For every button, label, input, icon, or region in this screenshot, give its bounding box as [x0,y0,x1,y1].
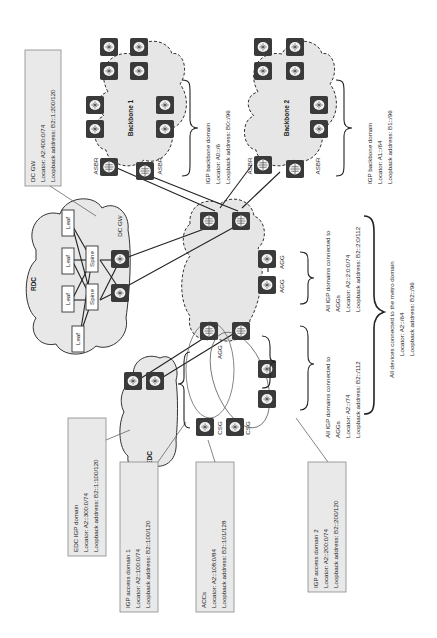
svg-text:All devices connected to the m: All devices connected to the metro domai… [388,261,395,378]
svg-text:Locator: A2::300:0/74: Locator: A2::300:0/74 [82,493,89,552]
svg-text:Locator: A2::200:0/74: Locator: A2::200:0/74 [322,529,329,588]
svg-text:Loopback address: B2::1:100/12: Loopback address: B2::1:100/120 [92,459,99,552]
svg-text:All IGP domains connected to: All IGP domains connected to [324,230,331,312]
svg-text:Loopback address: B2::200/120: Loopback address: B2::200/120 [332,500,339,588]
leaf-label: Leaf [74,333,81,345]
annotation-backbone1: IGP backbone domain Locator: A0::/6 Loop… [204,110,231,184]
svg-text:IGP backbone domain: IGP backbone domain [204,122,211,184]
svg-text:Loopback address: B2::2:0/112: Loopback address: B2::2:0/112 [354,226,361,312]
callout-dc-gw: DC GW Locator: A2:400:0/74 Loopback addr… [25,50,96,216]
svg-text:Loopback address: B2::/112: Loopback address: B2::/112 [354,361,361,438]
annotation-agg-domain: All IGP domains connected to AGGs Locato… [324,226,361,312]
brace-agg-domain [300,252,314,304]
annotation-access-domains: All IGP domains connected to AGGs Locato… [324,356,361,438]
svg-text:Locator: A2:400:0/74: Locator: A2:400:0/74 [39,124,46,182]
svg-text:Locator: A2::2:0:0/74: Locator: A2::2:0:0/74 [344,254,351,312]
leaf-label: Leaf [64,255,71,267]
csg-label: CSG [216,421,223,435]
leaf-label: Leaf [64,217,71,229]
annotation-backbone2: IGP backbone domain Locator: A1::/64 Loo… [366,110,393,184]
svg-text:Loopback address: B2::1:200/12: Loopback address: B2::1:200/120 [49,89,56,182]
svg-text:AGGs: AGGs [334,421,341,438]
brace-metro [364,216,384,414]
svg-text:Loopback address: B0::/96: Loopback address: B0::/96 [224,110,231,184]
asbr-label: ASBR [92,157,99,174]
svg-text:AGGs: AGGs [334,295,341,312]
svg-text:Locator: A2::108:0/84: Locator: A2::108:0/84 [210,549,217,608]
asbr-icon [136,162,154,180]
agg-label: AGG [278,279,285,293]
svg-text:Locator: A2::/64: Locator: A2::/64 [398,312,405,356]
svg-text:Locator: A1::/64: Locator: A1::/64 [376,140,383,184]
brace-access-domains [300,326,314,410]
backbone2-label: Backbone 2 [283,99,290,136]
asbr-label: ASBR [156,157,163,174]
asbr-label: ASBR [314,157,321,174]
agg-label: AGG [278,255,285,269]
csg-label: CSG [244,421,251,435]
svg-text:All IGP domains connected to: All IGP domains connected to [324,356,331,438]
spine-label: Spine [88,289,95,305]
svg-text:IGP access domain 1: IGP access domain 1 [124,549,131,608]
svg-text:Locator: A2::/74: Locator: A2::/74 [344,394,351,438]
svg-text:Locator: A0::/6: Locator: A0::/6 [214,144,221,184]
svg-text:Loopback address: B1::/96: Loopback address: B1::/96 [386,110,393,184]
callout-igp-access-2: IGP access domain 2 Locator: A2::200:0/7… [296,418,346,592]
annotation-metro: All devices connected to the metro domai… [388,261,415,378]
svg-text:IGP access domain 2: IGP access domain 2 [312,529,319,588]
asbr-icon [100,158,118,176]
agg-label: AGG [216,345,223,359]
svg-text:Locator: A2::100:0/74: Locator: A2::100:0/74 [134,549,141,608]
svg-text:IGP backbone domain: IGP backbone domain [366,122,373,184]
svg-text:DC GW: DC GW [29,161,36,182]
access-routers [196,360,276,436]
dc-gw-label: DC GW [116,215,123,236]
leaf-label: Leaf [64,293,71,305]
asbr-label: ASBR [246,157,253,174]
backbone1-label: Backbone 1 [127,99,134,136]
network-diagram: Backbone 1 Backbone 2 RDC EDC Leaf Leaf … [0,0,437,638]
callout-accs: ACCs Locator: A2::108:0/84 Loopback addr… [196,440,234,612]
svg-text:EDC IGP domain: EDC IGP domain [72,504,79,552]
svg-text:Loopback address: B2::101/128: Loopback address: B2::101/128 [220,520,227,608]
svg-text:Loopback address: B2::100/120: Loopback address: B2::100/120 [144,520,151,608]
brace-backbone2 [336,80,352,176]
aggregation-cloud [182,199,265,341]
svg-text:ACCs: ACCs [200,592,207,608]
spine-label: Spine [88,251,95,267]
rdc-label: RDC [30,277,37,291]
svg-text:Loopback address: B2::/96: Loopback address: B2::/96 [408,282,415,356]
